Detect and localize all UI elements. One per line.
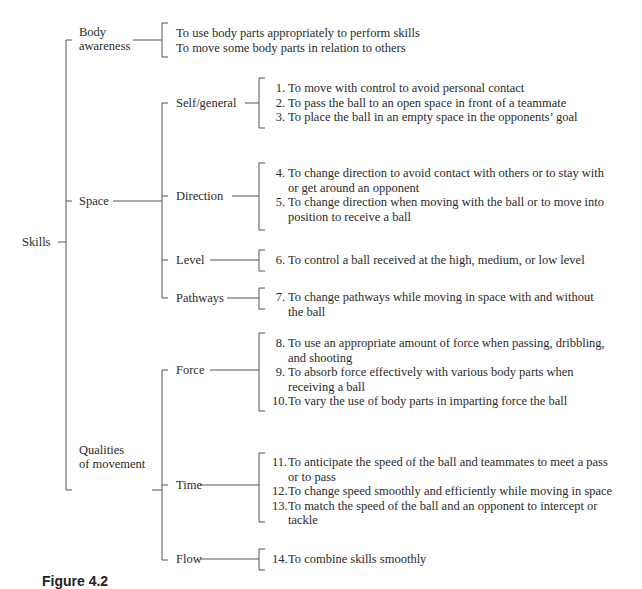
list-item: 7.To change pathways while moving in spa… xyxy=(272,290,594,319)
item-group-force: 8.To use an appropriate amount of force … xyxy=(272,336,605,409)
label-line: of movement xyxy=(79,457,145,471)
category-label-qualities-of-movement: Qualities of movement xyxy=(79,443,145,471)
subcategory-label-direction: Direction xyxy=(176,189,223,203)
list-item: 10.To vary the use of body parts in impa… xyxy=(272,394,605,409)
list-item: 12.To change speed smoothly and efficien… xyxy=(272,484,612,499)
item-group-self-general: 1.To move with control to avoid personal… xyxy=(272,81,577,125)
list-item: 5.To change direction when moving with t… xyxy=(272,195,604,224)
item-text: To move some body parts in relation to o… xyxy=(176,41,420,56)
root-label-skills: Skills xyxy=(22,235,51,249)
item-group-time: 11.To anticipate the speed of the ball a… xyxy=(272,455,612,528)
figure-caption: Figure 4.2 xyxy=(42,573,108,589)
list-item: 9.To absorb force effectively with vario… xyxy=(272,365,605,394)
item-text: To use body parts appropriately to perfo… xyxy=(176,26,420,41)
item-group-flow: 14.To combine skills smoothly xyxy=(272,552,426,567)
subcategory-label-self-general: Self/general xyxy=(176,96,236,110)
list-item: 11.To anticipate the speed of the ball a… xyxy=(272,455,612,484)
list-item: 8.To use an appropriate amount of force … xyxy=(272,336,605,365)
subcategory-label-level: Level xyxy=(176,253,204,267)
category-label-body-awareness: Body awareness xyxy=(79,25,130,53)
item-group-direction: 4.To change direction to avoid contact w… xyxy=(272,166,604,224)
list-item: 1.To move with control to avoid personal… xyxy=(272,81,577,96)
list-item: 14.To combine skills smoothly xyxy=(272,552,426,567)
list-item: 13.To match the speed of the ball and an… xyxy=(272,499,612,528)
category-label-space: Space xyxy=(79,194,109,208)
list-item: 4.To change direction to avoid contact w… xyxy=(272,166,604,195)
subcategory-label-force: Force xyxy=(176,363,204,377)
list-item: 3.To place the ball in an empty space in… xyxy=(272,110,577,125)
item-group-pathways: 7.To change pathways while moving in spa… xyxy=(272,290,594,319)
label-line: awareness xyxy=(79,39,130,53)
subcategory-label-pathways: Pathways xyxy=(176,291,224,305)
subcategory-label-flow: Flow xyxy=(176,552,202,566)
item-group-level: 6.To control a ball received at the high… xyxy=(272,253,585,268)
list-item: 6.To control a ball received at the high… xyxy=(272,253,585,268)
list-item: To use body parts appropriately to perfo… xyxy=(176,26,420,55)
label-line: Body xyxy=(79,25,130,39)
label-line: Qualities xyxy=(79,443,145,457)
subcategory-label-time: Time xyxy=(176,478,202,492)
list-item: 2.To pass the ball to an open space in f… xyxy=(272,96,577,111)
